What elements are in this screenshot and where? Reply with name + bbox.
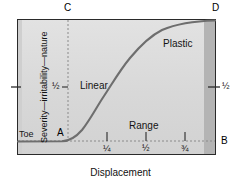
region-label-plastic: Plastic [163,39,192,49]
region-label-range: Range [129,121,158,131]
y-axis-title: Severity—irritability—nature [39,31,53,143]
point-label-b: B [221,136,228,146]
figure-canvas: C D A B Toe Linear Plastic Range ½ ½ ¼ ½… [0,0,241,186]
xtick-label-threequarter: ¾ [181,144,189,153]
xtick-label-quarter: ¼ [103,144,111,153]
point-label-c: C [64,3,71,13]
point-label-d: D [212,3,219,13]
region-label-linear: Linear [80,81,108,91]
chart-vector-layer [0,0,241,186]
x-axis-title: Displacement [0,167,241,178]
ytick-label-left-mid: ½ [52,82,60,91]
xtick-label-half: ½ [142,144,150,153]
region-label-toe: Toe [19,130,34,139]
point-label-a: A [57,128,64,138]
ytick-label-right-mid: ½ [222,82,230,91]
